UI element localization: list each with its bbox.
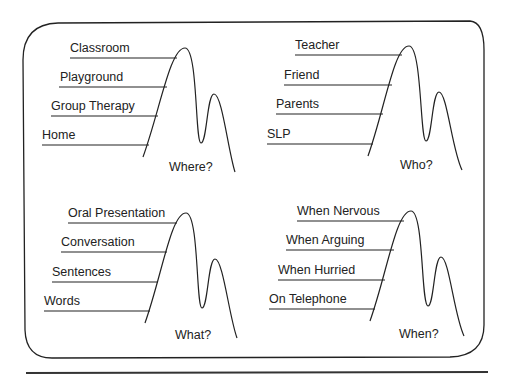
label-slp: SLP: [267, 127, 291, 141]
label-group-therapy: Group Therapy: [51, 99, 135, 113]
label-when-nervous: When Nervous: [297, 204, 380, 218]
bottom-rule: [26, 372, 488, 373]
question-when: When?: [399, 327, 439, 341]
question-who: Who?: [400, 158, 433, 172]
label-oral-presentation: Oral Presentation: [68, 206, 165, 220]
label-home: Home: [42, 128, 75, 142]
label-classroom: Classroom: [70, 41, 130, 55]
label-words: Words: [44, 294, 80, 308]
label-when-arguing: When Arguing: [286, 233, 365, 247]
label-friend: Friend: [284, 68, 319, 82]
label-when-hurried: When Hurried: [278, 263, 355, 277]
label-conversation: Conversation: [61, 235, 135, 249]
question-what: What?: [175, 328, 211, 342]
label-playground: Playground: [60, 70, 123, 84]
label-sentences: Sentences: [52, 265, 111, 279]
question-where: Where?: [169, 160, 213, 174]
label-teacher: Teacher: [295, 38, 339, 52]
label-parents: Parents: [276, 97, 319, 111]
diagram-graphics: [0, 0, 506, 380]
label-on-telephone: On Telephone: [269, 292, 347, 306]
